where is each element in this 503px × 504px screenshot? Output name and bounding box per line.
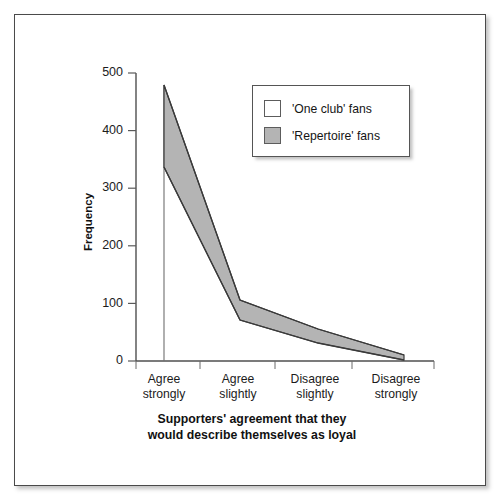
x-category-label-4-line2: strongly <box>358 387 434 402</box>
figure-root: 500 400 300 200 100 0 Frequency <box>0 0 503 504</box>
x-axis-caption-line2: would describe themselves as loyal <box>72 427 432 443</box>
x-category-label-1-line2: strongly <box>128 387 200 402</box>
x-category-label-2: Agree slightly <box>202 372 274 401</box>
x-axis-caption-line1: Supporters' agreement that they <box>72 411 432 427</box>
x-category-label-1: Agree strongly <box>128 372 200 401</box>
legend-item-repertoire: 'Repertoire' fans <box>264 122 409 149</box>
legend-swatch-one-club <box>264 100 281 117</box>
x-category-label-2-line1: Agree <box>202 372 274 387</box>
y-tick-label-200: 200 <box>102 238 123 252</box>
plot-area: 500 400 300 200 100 0 Frequency <box>0 0 503 504</box>
legend-swatch-repertoire <box>264 127 281 144</box>
y-tick-label-400: 400 <box>102 123 123 137</box>
x-category-label-2-line2: slightly <box>202 387 274 402</box>
x-category-label-3: Disagree slightly <box>278 372 352 401</box>
legend-item-one-club: 'One club' fans <box>264 95 409 122</box>
x-category-label-4-line1: Disagree <box>358 372 434 387</box>
legend-label-one-club: 'One club' fans <box>292 102 372 116</box>
x-category-label-1-line1: Agree <box>128 372 200 387</box>
x-category-label-3-line2: slightly <box>278 387 352 402</box>
y-tick-label-500: 500 <box>102 65 123 79</box>
x-category-label-4: Disagree strongly <box>358 372 434 401</box>
y-tick-label-0: 0 <box>116 353 123 367</box>
y-tick-label-100: 100 <box>102 296 123 310</box>
y-axis-title: Frequency <box>82 192 94 251</box>
x-category-label-3-line1: Disagree <box>278 372 352 387</box>
y-tick-label-300: 300 <box>102 180 123 194</box>
legend-label-repertoire: 'Repertoire' fans <box>292 129 380 143</box>
chart-legend: 'One club' fans 'Repertoire' fans <box>252 85 410 157</box>
x-axis-caption: Supporters' agreement that they would de… <box>72 411 432 443</box>
